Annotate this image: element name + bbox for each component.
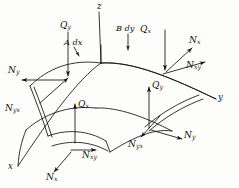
bottom-edge-left-arc	[26, 107, 96, 130]
top-left-face-arrows	[22, 32, 68, 103]
near-face-outer-edge	[48, 132, 106, 141]
n-yx-right-label: Nyx	[128, 140, 143, 150]
q-y-right-label: Qy	[152, 81, 163, 91]
right-face-inner	[149, 99, 203, 131]
y-axis-label: y	[218, 93, 223, 102]
near-face	[48, 132, 110, 152]
q-x-top-right-label: Qx	[140, 25, 151, 35]
n-x-near-label: Nx	[46, 173, 58, 183]
n-yx-left-arrow	[40, 78, 68, 103]
shell-element-figure: z y x A dx B dy Qy Ny Nyx Qx Nx Nxy Qx N…	[0, 0, 239, 188]
near-face-arrows	[54, 104, 96, 172]
n-x-near-arrow	[54, 152, 71, 172]
right-face-arrows	[141, 87, 182, 139]
n-xy-near-label: Nxy	[82, 151, 97, 161]
z-axis-label: z	[97, 2, 101, 11]
a-dx-label: A dx	[64, 38, 82, 46]
n-xy-top-right-label: Nxy	[186, 61, 201, 71]
n-yx-left-label: Nyx	[5, 104, 20, 114]
top-edge-left-arc	[30, 62, 101, 86]
q-y-top-left-label: Qy	[60, 21, 71, 31]
x-axis-label: x	[8, 162, 13, 171]
b-dy-label: B dy	[116, 24, 135, 32]
q-x-near-label: Qx	[78, 100, 89, 110]
n-y-right-arrow	[151, 130, 182, 139]
n-yx-right-arrow	[141, 116, 160, 137]
bottom-edge-right-arc	[96, 108, 172, 131]
n-y-left-label: Ny	[8, 66, 20, 76]
n-x-top-right-label: Nx	[189, 36, 201, 46]
n-y-right-label: Ny	[184, 131, 196, 141]
axis-lines	[18, 12, 216, 166]
a-dx-leader	[74, 47, 79, 56]
left-face-thickness	[18, 86, 52, 166]
left-face-outer	[30, 86, 48, 136]
